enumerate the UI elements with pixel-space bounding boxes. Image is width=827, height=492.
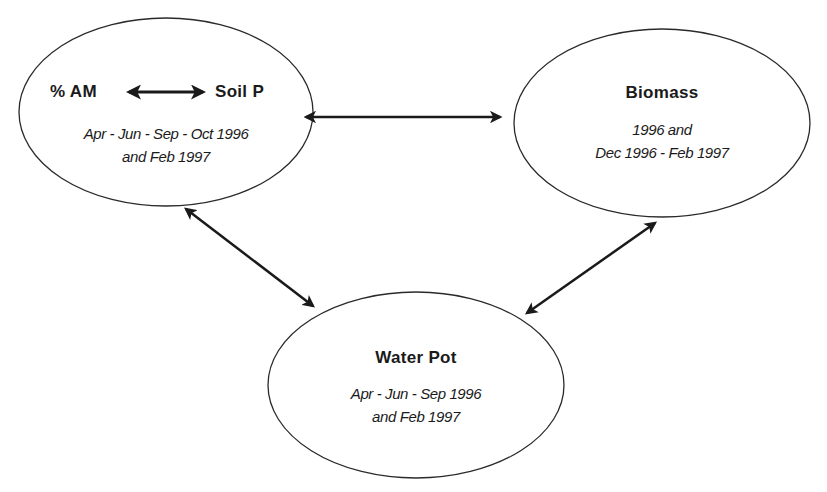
node-subtitle-am-soilp-line1: Apr - Jun - Sep - Oct 1996 bbox=[16, 123, 316, 145]
node-title-biomass: Biomass bbox=[512, 83, 812, 103]
arrow-biomass-water-pot bbox=[527, 223, 655, 313]
arrow-am-soilp-water-pot bbox=[186, 209, 313, 306]
node-subtitle-water-pot-line2: and Feb 1997 bbox=[266, 406, 566, 428]
node-title-water-pot: Water Pot bbox=[266, 348, 566, 368]
node-subtitle-biomass-line2: Dec 1996 - Feb 1997 bbox=[512, 142, 812, 164]
node-ellipse-am-soilp bbox=[19, 18, 313, 206]
node-subtitle-water-pot-line1: Apr - Jun - Sep 1996 bbox=[266, 383, 566, 405]
node-subtitle-biomass-line1: 1996 and bbox=[512, 119, 812, 141]
node-subtitle-am-soilp-line2: and Feb 1997 bbox=[16, 146, 316, 168]
node-title-soil-p: Soil P bbox=[215, 82, 264, 102]
node-title-am: % AM bbox=[50, 82, 97, 102]
